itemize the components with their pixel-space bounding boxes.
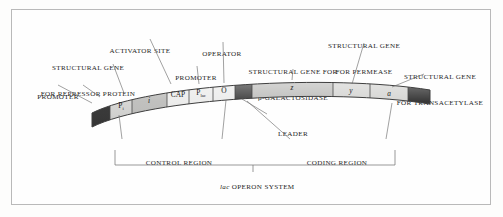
operon-bracket [115,150,395,172]
diagram-graphics: Pi i CAP Plac O z y a [0,0,503,217]
segment-label-cap: CAP [171,90,185,99]
segment-label-a: a [387,89,391,98]
lac-operon-figure: STRUCTURAL GENE FOR REPRESSOR PROTEIN AC… [0,0,503,217]
strand-shading [88,70,438,140]
segment-label-i: i [148,96,150,105]
segment-leader [235,70,252,140]
segment-cap-left [88,70,110,140]
segment-y [333,70,370,140]
segment-label-z: z [290,83,294,92]
dna-strand [88,70,438,140]
segment-a [370,70,408,140]
segment-p-lac [189,70,213,140]
segment-cap-right [408,70,438,140]
segment-z [252,70,333,140]
segment-label-o: O [221,86,227,95]
segment-label-y: y [348,86,353,95]
